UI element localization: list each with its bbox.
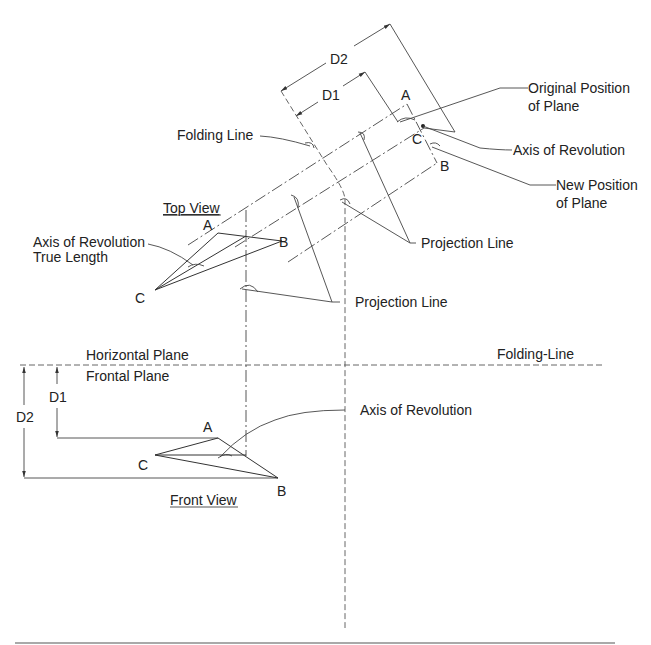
front-d2-label: D2 — [16, 409, 34, 425]
top-point-b: B — [279, 234, 288, 250]
label-projection-line-2: Projection Line — [355, 294, 448, 310]
aux-d1-label: D1 — [322, 87, 340, 103]
label-folding-line-hf: Folding-Line — [497, 346, 574, 362]
top-point-c: C — [135, 290, 145, 306]
aux-point-b: B — [440, 158, 449, 174]
projection-line-a — [188, 104, 407, 245]
label-frontal-plane: Frontal Plane — [86, 368, 169, 384]
aux-dimension-d2: D2 — [281, 24, 455, 132]
label-axis-of-revolution-front: Axis of Revolution — [360, 402, 472, 418]
projection-line-c — [235, 128, 424, 247]
front-point-c: C — [138, 457, 148, 473]
front-point-b: B — [277, 483, 286, 499]
label-folding-line-aux: Folding Line — [177, 127, 253, 143]
label-axis-true-length-2: True Length — [33, 249, 108, 265]
leader-projection-line-1 — [340, 132, 416, 243]
label-projection-line-1: Projection Line — [421, 235, 514, 251]
front-view-triangle — [155, 438, 278, 478]
label-top-view: Top View — [163, 200, 220, 216]
front-point-a: A — [203, 419, 213, 435]
label-front-view: Front View — [170, 492, 238, 508]
aux-d2-label: D2 — [330, 51, 348, 67]
label-new-position-1: New Position — [556, 177, 638, 193]
projection-line-b — [288, 163, 437, 262]
folding-line-aux — [281, 91, 345, 628]
leader-axis-true-length — [148, 244, 204, 267]
label-new-position-2: of Plane — [556, 195, 608, 211]
label-axis-of-revolution-aux: Axis of Revolution — [513, 142, 625, 158]
leader-projection-line-2 — [240, 195, 340, 302]
aux-point-c: C — [412, 131, 422, 147]
label-axis-true-length-1: Axis of Revolution — [33, 234, 145, 250]
aux-dimension-d1: D1 — [296, 72, 398, 122]
label-horizontal-plane: Horizontal Plane — [86, 347, 189, 363]
label-original-position-2: of Plane — [528, 98, 580, 114]
leader-folding-line — [260, 136, 314, 148]
front-d1-label: D1 — [49, 389, 67, 405]
leader-axis-of-revolution-aux — [421, 124, 512, 150]
aux-point-a: A — [401, 87, 411, 103]
label-original-position-1: Original Position — [528, 80, 630, 96]
leader-original-position — [397, 88, 528, 122]
descriptive-geometry-diagram: D2 D1 A C B Original Position of Plane A… — [0, 0, 651, 645]
top-view-triangle — [155, 233, 282, 290]
top-point-a: A — [203, 217, 213, 233]
